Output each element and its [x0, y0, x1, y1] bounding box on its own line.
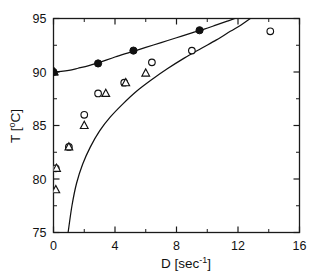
- data-point-filled-circle: [130, 47, 137, 54]
- x-tick-label: 8: [173, 239, 180, 253]
- figure-container: 0481216 7580859095 D [sec-1] T [oC]: [0, 0, 314, 276]
- x-axis-title: D [sec-1]: [161, 255, 211, 271]
- data-point-open-circle: [267, 28, 274, 35]
- data-point-open-triangle: [80, 121, 88, 128]
- y-tick-label: 75: [33, 226, 47, 240]
- lower-boundary-curve: [68, 19, 250, 233]
- plot-frame: [54, 19, 300, 233]
- x-axis-major-ticks: [54, 19, 300, 233]
- data-point-open-circle: [189, 47, 196, 54]
- y-axis-title-tail: C]: [8, 109, 23, 123]
- x-tick-label: 0: [50, 239, 57, 253]
- data-point-open-triangle: [102, 89, 110, 96]
- x-axis-title-tail: ]: [207, 256, 211, 271]
- x-tick-labels: 0481216: [50, 239, 306, 253]
- data-point-open-triangle: [142, 69, 150, 76]
- data-point-open-circle: [95, 90, 102, 97]
- data-point-filled-circle: [94, 60, 101, 67]
- y-tick-label: 90: [33, 66, 47, 80]
- data-markers: [50, 27, 274, 193]
- y-axis-title-base: T [: [8, 127, 23, 143]
- data-point-filled-circle: [196, 27, 203, 34]
- data-point-open-circle: [149, 59, 156, 66]
- y-axis-title: T [oC]: [7, 109, 23, 143]
- y-axis-major-ticks: [54, 19, 300, 233]
- data-point-open-circle: [81, 112, 88, 119]
- y-axis-minor-ticks: [54, 45, 300, 206]
- x-axis-title-sup: -1: [199, 255, 207, 265]
- scatter-chart: 0481216 7580859095 D [sec-1] T [oC]: [0, 0, 314, 276]
- x-tick-label: 4: [112, 239, 119, 253]
- x-tick-label: 12: [231, 239, 245, 253]
- y-tick-label: 85: [33, 119, 47, 133]
- x-axis-title-base: D [sec: [161, 256, 200, 271]
- y-tick-labels: 7580859095: [33, 12, 47, 240]
- x-axis-minor-ticks: [84, 19, 269, 233]
- y-tick-label: 80: [33, 173, 47, 187]
- y-tick-label: 95: [33, 12, 47, 26]
- x-tick-label: 16: [293, 239, 307, 253]
